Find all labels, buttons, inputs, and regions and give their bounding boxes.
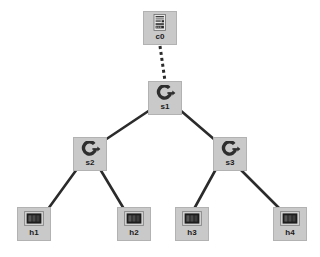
host-icon xyxy=(123,210,145,227)
node-h2[interactable]: h2 xyxy=(117,207,151,241)
node-s3[interactable]: s3 xyxy=(213,137,247,171)
link-s1-s3 xyxy=(180,110,215,140)
node-label-h4: h4 xyxy=(285,228,294,237)
switch-icon xyxy=(219,140,241,157)
node-s2[interactable]: s2 xyxy=(73,137,107,171)
node-h4[interactable]: h4 xyxy=(273,207,307,241)
node-label-h3: h3 xyxy=(187,228,196,237)
link-s3-h4 xyxy=(240,169,280,209)
network-topology-diagram: c0s1s2s3h1h2h3h4 xyxy=(0,0,320,257)
link-s2-h1 xyxy=(48,169,77,209)
node-h3[interactable]: h3 xyxy=(175,207,209,241)
switch-icon xyxy=(154,84,176,101)
host-icon xyxy=(181,210,203,227)
node-label-s1: s1 xyxy=(161,102,170,111)
node-label-h2: h2 xyxy=(129,228,138,237)
node-label-s3: s3 xyxy=(226,158,235,167)
node-label-h1: h1 xyxy=(29,228,38,237)
host-icon xyxy=(23,210,45,227)
link-s1-s2 xyxy=(105,110,150,140)
link-s2-h2 xyxy=(100,169,124,209)
node-s1[interactable]: s1 xyxy=(148,81,182,115)
node-label-s2: s2 xyxy=(86,158,95,167)
controller-icon xyxy=(149,14,171,31)
node-h1[interactable]: h1 xyxy=(17,207,51,241)
host-icon xyxy=(279,210,301,227)
node-label-c0: c0 xyxy=(156,32,165,41)
switch-icon xyxy=(79,140,101,157)
link-s3-h3 xyxy=(194,169,216,209)
link-c0-s1 xyxy=(160,46,165,81)
node-c0[interactable]: c0 xyxy=(143,11,177,45)
